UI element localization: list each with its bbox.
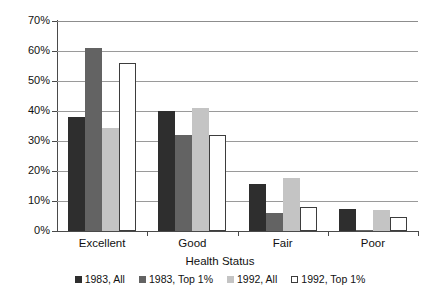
y-tick-mark <box>52 141 57 142</box>
x-tick-label-excellent: Excellent <box>57 236 147 250</box>
bar-good-series-3 <box>209 135 226 231</box>
x-tick-label-fair: Fair <box>238 236 328 250</box>
legend-label: 1992, Top 1% <box>301 273 365 285</box>
bar-excellent-series-2 <box>102 128 119 232</box>
bar-group-fair <box>238 21 328 231</box>
y-tick-label: 0% <box>4 225 50 236</box>
plot-area <box>57 21 418 231</box>
bar-excellent-series-3 <box>119 63 136 231</box>
y-tick-label: 40% <box>4 105 50 116</box>
bar-group-poor <box>328 21 418 231</box>
chart-legend: 1983, All1983, Top 1%1992, All1992, Top … <box>0 273 440 285</box>
legend-swatch-icon <box>291 276 298 283</box>
bar-chart: 70%60%50%40%30%20%10%0% Health Status 19… <box>0 0 440 294</box>
x-tick-label-good: Good <box>147 236 237 250</box>
legend-swatch-icon <box>75 276 82 283</box>
legend-item-1: 1983, Top 1% <box>139 273 213 285</box>
bar-fair-series-0 <box>249 184 266 231</box>
x-tick-label-poor: Poor <box>328 236 418 250</box>
bar-group-good <box>147 21 237 231</box>
x-axis-title: Health Status <box>0 255 440 267</box>
y-tick-mark <box>52 21 57 22</box>
legend-label: 1983, All <box>85 273 125 285</box>
legend-item-2: 1992, All <box>227 273 277 285</box>
y-tick-mark <box>52 231 57 232</box>
y-tick-label: 10% <box>4 195 50 206</box>
y-tick-label: 30% <box>4 135 50 146</box>
legend-item-0: 1983, All <box>75 273 125 285</box>
bar-excellent-series-1 <box>85 48 102 231</box>
legend-swatch-icon <box>227 276 234 283</box>
x-axis-separator <box>418 231 419 236</box>
bar-poor-series-0 <box>339 209 356 231</box>
y-tick-label: 20% <box>4 165 50 176</box>
y-tick-mark <box>52 201 57 202</box>
bar-good-series-2 <box>192 108 209 231</box>
y-axis-tick-labels: 70%60%50%40%30%20%10%0% <box>0 0 50 294</box>
legend-label: 1983, Top 1% <box>149 273 213 285</box>
bar-excellent-series-0 <box>68 117 85 231</box>
legend-swatch-icon <box>139 276 146 283</box>
bar-good-series-1 <box>175 135 192 231</box>
bar-poor-series-1 <box>356 230 373 232</box>
y-tick-mark <box>52 111 57 112</box>
bar-poor-series-3 <box>390 217 407 231</box>
bar-fair-series-2 <box>283 178 300 231</box>
legend-label: 1992, All <box>237 273 277 285</box>
y-tick-label: 50% <box>4 75 50 86</box>
y-tick-label: 60% <box>4 45 50 56</box>
bar-poor-series-2 <box>373 210 390 231</box>
bar-fair-series-1 <box>266 213 283 231</box>
legend-item-3: 1992, Top 1% <box>291 273 365 285</box>
bar-good-series-0 <box>158 111 175 231</box>
y-tick-mark <box>52 171 57 172</box>
y-tick-label: 70% <box>4 15 50 26</box>
y-tick-mark <box>52 81 57 82</box>
bar-group-excellent <box>57 21 147 231</box>
y-tick-mark <box>52 51 57 52</box>
bar-fair-series-3 <box>300 207 317 231</box>
